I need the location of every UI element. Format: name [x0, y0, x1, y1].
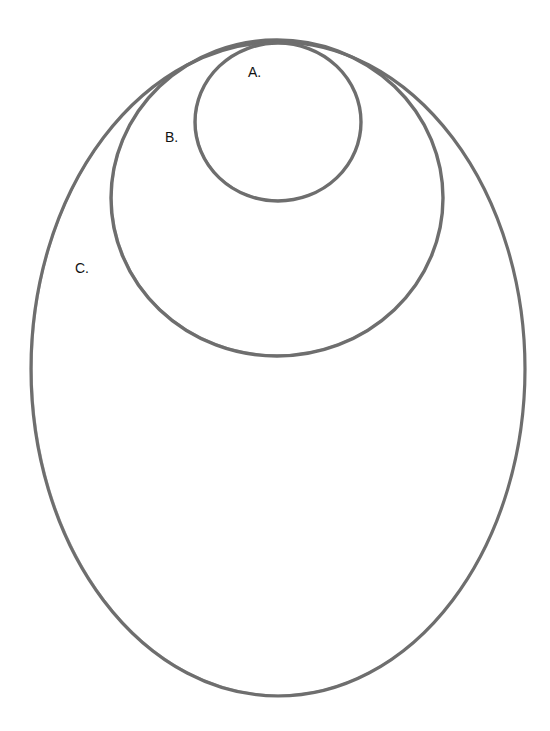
ellipse-a-group: A. — [195, 43, 361, 201]
ellipse-c — [31, 42, 525, 696]
nested-ellipses-diagram: C. B. A. — [0, 0, 550, 731]
ellipse-b-group: B. — [111, 40, 443, 356]
label-b: B. — [165, 129, 178, 145]
label-a: A. — [248, 64, 261, 80]
label-c: C. — [75, 260, 89, 276]
ellipse-c-sketch-stroke — [32, 42, 525, 695]
ellipse-c-group: C. — [31, 42, 525, 696]
